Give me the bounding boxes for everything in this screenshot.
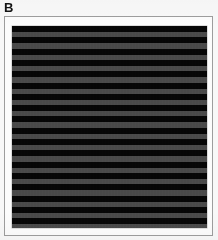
stimulus-mat — [5, 17, 212, 235]
square-wave-grating-image — [12, 26, 207, 228]
panel-label: B — [4, 0, 14, 15]
stimulus-frame — [4, 16, 213, 236]
figure-panel: B — [0, 0, 218, 240]
grating-bar-light — [12, 224, 207, 228]
grating-bar-stack — [12, 26, 207, 228]
